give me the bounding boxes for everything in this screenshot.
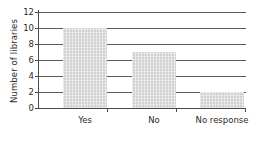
plot-area	[38, 12, 246, 108]
y-tick-label-10: 10	[18, 24, 34, 33]
y-tick-label-8: 8	[18, 40, 34, 49]
y-tick-label-0: 0	[18, 104, 34, 113]
bar-yes[interactable]	[63, 28, 107, 108]
y-tick-label-12: 12	[18, 8, 34, 17]
y-tick-label-0-wrap: 0	[14, 104, 34, 113]
y-tick-label-4-wrap: 4	[14, 72, 34, 81]
y-tick-label-2-wrap: 2	[14, 88, 34, 97]
bar-chart: Number of libraries 12 10 8 6 4 2 0	[0, 0, 260, 150]
y-tick-label-6-wrap: 6	[14, 56, 34, 65]
x-tick-mark-3	[245, 108, 246, 112]
x-axis-line	[38, 108, 246, 109]
x-tick-mark-1	[107, 108, 108, 112]
bar-no[interactable]	[132, 52, 176, 108]
x-label-no-response: No response	[187, 115, 257, 126]
y-tick-label-4: 4	[18, 72, 34, 81]
x-label-yes: Yes	[50, 115, 120, 126]
bar-no-response[interactable]	[200, 92, 244, 108]
y-tick-label-2: 2	[18, 88, 34, 97]
gridline-12	[38, 12, 246, 13]
y-tick-label-12-wrap: 12	[14, 8, 34, 17]
x-label-no: No	[119, 115, 189, 126]
y-tick-label-8-wrap: 8	[14, 40, 34, 49]
y-tick-label-6: 6	[18, 56, 34, 65]
x-tick-mark-2	[176, 108, 177, 112]
y-tick-label-10-wrap: 10	[14, 24, 34, 33]
